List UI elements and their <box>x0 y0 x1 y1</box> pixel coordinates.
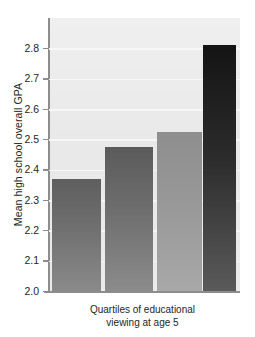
y-ticklabel-2.2: 2.2 <box>5 225 39 236</box>
y-axis-line <box>48 18 50 292</box>
plot-area <box>49 18 240 291</box>
y-ticklabel-2.1: 2.1 <box>5 255 39 266</box>
bar-quartile-1 <box>52 179 101 291</box>
x-axis-title-line2: viewing at age 5 <box>40 316 245 329</box>
x-axis-title-line1: Quartiles of educational <box>40 303 245 316</box>
y-ticklabel-2.7: 2.7 <box>5 73 39 84</box>
y-ticklabel-2.0: 2.0 <box>5 286 39 297</box>
bar-quartile-4 <box>203 45 236 291</box>
x-axis-line <box>44 291 240 293</box>
y-ticklabel-2.8: 2.8 <box>5 43 39 54</box>
y-tick-2.0 <box>43 291 49 293</box>
x-axis-title: Quartiles of educational viewing at age … <box>40 303 245 329</box>
bar-quartile-2 <box>105 147 153 291</box>
bar-chart-figure: Mean high school overall GPA 2.0 2.1 2.2… <box>0 0 255 337</box>
y-ticklabel-2.4: 2.4 <box>5 164 39 175</box>
y-ticklabel-2.3: 2.3 <box>5 195 39 206</box>
bar-quartile-3 <box>157 132 202 291</box>
y-ticklabel-2.5: 2.5 <box>5 134 39 145</box>
y-axis-title: Mean high school overall GPA <box>8 18 28 291</box>
y-ticklabel-2.6: 2.6 <box>5 104 39 115</box>
